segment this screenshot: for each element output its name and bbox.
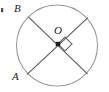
center-point-dot [56,42,60,46]
geometry-figure: B A O [0,0,109,92]
left-edge-tick [1,8,3,12]
vertex-label-o: O [54,25,62,36]
vertex-label-a: A [12,71,19,82]
vertex-label-b: B [14,3,21,14]
